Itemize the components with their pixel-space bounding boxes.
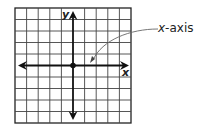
callout-label-rest: -axis	[165, 21, 193, 35]
origin-point	[70, 63, 76, 69]
x-axis-label: x	[122, 66, 129, 79]
callout-arrow	[93, 29, 158, 60]
callout-label: x-axis	[158, 21, 193, 35]
coordinate-plane	[0, 0, 201, 131]
y-axis-label: y	[62, 8, 69, 21]
